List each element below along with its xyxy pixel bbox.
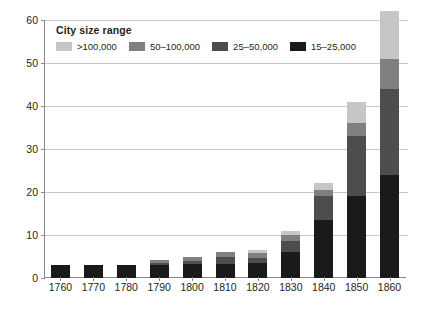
stacked-bar-chart: 0102030405060 17601770178017901800181018…: [0, 0, 424, 315]
bar-1800: [183, 257, 202, 278]
bar-segment: [281, 241, 300, 252]
x-axis-label-1860: 1860: [378, 281, 401, 293]
bar-segment: [281, 252, 300, 278]
y-axis-label-20: 20: [26, 186, 38, 198]
legend-item-3: 15–25,000: [290, 41, 356, 52]
legend-title: City size range: [56, 24, 386, 36]
y-axis-label-30: 30: [26, 143, 38, 155]
bar-1810: [216, 252, 235, 278]
legend-label: 50–100,000: [150, 41, 200, 52]
x-axis-label-1780: 1780: [115, 281, 138, 293]
legend-item-0: >100,000: [56, 41, 117, 52]
y-axis-label-10: 10: [26, 229, 38, 241]
legend-label: >100,000: [77, 41, 117, 52]
y-axis-label-40: 40: [26, 100, 38, 112]
y-axis: 0102030405060: [0, 20, 38, 278]
bar-segment: [380, 89, 399, 175]
y-tick-0: [41, 278, 45, 279]
x-axis-label-1820: 1820: [246, 281, 269, 293]
legend-items: >100,00050–100,00025–50,00015–25,000: [56, 41, 386, 52]
legend-swatch-icon: [212, 42, 228, 51]
bar-1830: [281, 231, 300, 278]
legend-swatch-icon: [290, 42, 306, 51]
bar-segment: [380, 175, 399, 278]
bar-segment: [347, 102, 366, 124]
y-axis-label-0: 0: [32, 272, 38, 284]
x-axis-label-1830: 1830: [279, 281, 302, 293]
bar-1850: [347, 102, 366, 278]
legend-label: 15–25,000: [311, 41, 356, 52]
bar-segment: [347, 196, 366, 278]
bar-1820: [248, 250, 267, 278]
x-axis-label-1850: 1850: [345, 281, 368, 293]
legend-item-1: 50–100,000: [129, 41, 200, 52]
bar-segment: [347, 123, 366, 136]
bar-segment: [216, 264, 235, 278]
legend-label: 25–50,000: [233, 41, 278, 52]
y-axis-label-60: 60: [26, 14, 38, 26]
x-axis-label-1760: 1760: [49, 281, 72, 293]
bar-1790: [150, 260, 169, 278]
bars-layer: [44, 20, 406, 278]
bar-segment: [380, 59, 399, 89]
bar-segment: [248, 263, 267, 278]
bar-segment: [314, 196, 333, 220]
x-axis-label-1810: 1810: [213, 281, 236, 293]
bar-segment: [183, 264, 202, 278]
x-axis-label-1770: 1770: [82, 281, 105, 293]
legend-swatch-icon: [56, 42, 72, 51]
x-axis-label-1800: 1800: [180, 281, 203, 293]
bar-segment: [347, 136, 366, 196]
y-axis-label-50: 50: [26, 57, 38, 69]
legend-swatch-icon: [129, 42, 145, 51]
legend-item-2: 25–50,000: [212, 41, 278, 52]
bar-segment: [314, 220, 333, 278]
x-axis-label-1840: 1840: [312, 281, 335, 293]
bar-1840: [314, 183, 333, 278]
chart-legend: City size range >100,00050–100,00025–50,…: [56, 24, 386, 52]
x-axis-label-1790: 1790: [147, 281, 170, 293]
x-axis: 1760177017801790180018101820183018401850…: [44, 281, 406, 303]
